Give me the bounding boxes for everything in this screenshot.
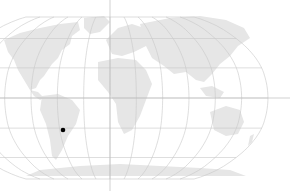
antarctica — [26, 164, 246, 176]
greenland — [84, 16, 110, 34]
south-america — [40, 94, 80, 160]
north-america — [4, 22, 80, 90]
africa — [98, 58, 152, 134]
asia — [140, 16, 250, 82]
location-marker[interactable] — [61, 128, 66, 133]
world-map[interactable] — [0, 0, 290, 191]
southeast-asia — [200, 86, 224, 98]
